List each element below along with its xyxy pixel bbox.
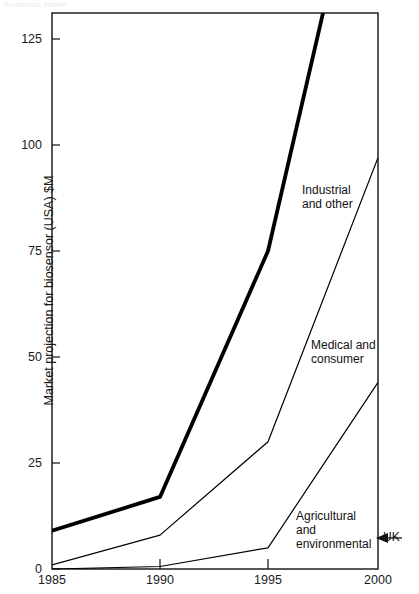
y-tick-label-75: 75 xyxy=(2,245,42,258)
y-tick-label-100: 100 xyxy=(2,139,42,152)
x-tick-label-1985: 1985 xyxy=(25,574,79,587)
chart-plot-area xyxy=(0,0,419,594)
y-axis-label: Market projection for biosensor (USA) $M xyxy=(43,166,56,416)
x-tick-label-2000: 2000 xyxy=(351,574,405,587)
x-tick-label-1990: 1990 xyxy=(133,574,187,587)
uk-annotation-label: UK xyxy=(383,530,400,544)
y-tick-label-125: 125 xyxy=(2,33,42,46)
plot-frame xyxy=(52,13,378,569)
series-annotation-medical-and-consumer: Medical and consumer xyxy=(311,338,376,366)
y-tick-label-50: 50 xyxy=(2,351,42,364)
series-annotation-agricultural-and-environmental: Agricultural and environmental xyxy=(296,509,371,551)
x-tick-label-1995: 1995 xyxy=(241,574,295,587)
figure-container: Biosensors Market xyxy=(0,0,419,594)
y-tick-label-25: 25 xyxy=(2,457,42,470)
series-annotation-industrial-and-other: Industrial and other xyxy=(302,183,353,211)
